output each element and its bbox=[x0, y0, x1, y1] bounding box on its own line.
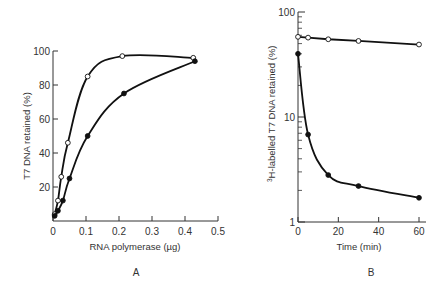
y-tick-label: 80 bbox=[39, 80, 51, 91]
filled-circle-marker bbox=[67, 176, 72, 181]
open-circle-marker bbox=[120, 54, 125, 59]
open-circle-marker bbox=[326, 37, 331, 42]
chart-a: 2040608010000.10.20.30.40.5 bbox=[33, 46, 225, 238]
chart-a-x-axis-label: RNA polymerase (µg) bbox=[89, 241, 180, 252]
filled-circle-marker bbox=[356, 184, 361, 189]
filled-circle-marker bbox=[52, 214, 57, 219]
open-circle-marker bbox=[56, 198, 61, 203]
chart-b: 1101000204060 bbox=[278, 7, 426, 238]
chart-b-y-axis-label: 3H-labelled T7 DNA retained (%) bbox=[266, 45, 277, 182]
y-tick-label: 60 bbox=[39, 114, 51, 125]
open-circle-marker bbox=[356, 39, 361, 44]
filled-circle-marker bbox=[85, 134, 90, 139]
open-circle-marker bbox=[306, 35, 311, 40]
open-circle-marker bbox=[59, 174, 64, 179]
x-tick-label: 0.2 bbox=[112, 226, 126, 237]
filled-circle-marker bbox=[306, 132, 311, 137]
y-label-text: H-labelled T7 DNA retained (%) bbox=[266, 45, 277, 178]
y-tick-label: 20 bbox=[39, 182, 51, 193]
open-circle-marker bbox=[85, 74, 90, 79]
svg-text:3H-labelled T7 DNA retained (%: 3H-labelled T7 DNA retained (%) bbox=[266, 45, 277, 182]
x-tick-label: 60 bbox=[413, 226, 425, 237]
y-tick-label: 100 bbox=[33, 46, 50, 57]
filled-circle-marker bbox=[56, 208, 61, 213]
panel-b-label: B bbox=[368, 267, 375, 278]
y-tick-label: 100 bbox=[278, 7, 295, 18]
filled-circle-marker bbox=[193, 59, 198, 64]
x-tick-label: 0.5 bbox=[211, 226, 225, 237]
open-circle-marker bbox=[296, 34, 301, 39]
x-tick-label: 0 bbox=[50, 226, 56, 237]
chart-b-x-axis-label: Time (min) bbox=[336, 241, 381, 252]
panel-a-label: A bbox=[133, 267, 140, 278]
open-circle-marker bbox=[417, 42, 422, 47]
filled-circle-marker bbox=[326, 173, 331, 178]
x-tick-label: 0.3 bbox=[145, 226, 159, 237]
filled-circle-marker bbox=[122, 91, 127, 96]
filled-circle-marker bbox=[417, 195, 422, 200]
chart-a-y-axis-label: T7 DNA retained (%) bbox=[21, 92, 32, 180]
series-line bbox=[55, 61, 195, 216]
x-tick-label: 0.4 bbox=[178, 226, 192, 237]
series-line bbox=[298, 54, 419, 198]
x-tick-label: 40 bbox=[373, 226, 385, 237]
figure: 2040608010000.10.20.30.40.5 110100020406… bbox=[0, 0, 428, 287]
y-tick-label: 40 bbox=[39, 148, 51, 159]
x-tick-label: 0 bbox=[295, 226, 301, 237]
series-line bbox=[55, 55, 194, 214]
open-circle-marker bbox=[65, 140, 70, 145]
x-tick-label: 20 bbox=[333, 226, 345, 237]
y-tick-label: 10 bbox=[284, 112, 296, 123]
filled-circle-marker bbox=[296, 51, 301, 56]
x-tick-label: 0.1 bbox=[79, 226, 93, 237]
filled-circle-marker bbox=[61, 198, 66, 203]
